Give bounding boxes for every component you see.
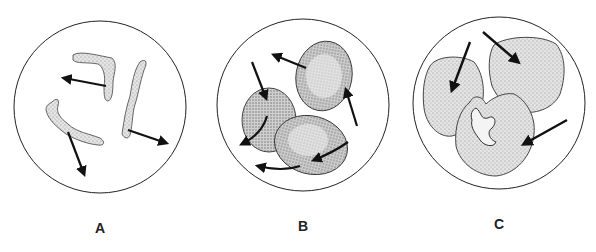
- arrow-icon: [128, 130, 166, 143]
- panel-b: [217, 19, 389, 191]
- cell-center: [288, 124, 328, 156]
- panel-a: [14, 21, 186, 193]
- arrow-icon: [346, 90, 357, 126]
- panel-a-circle: [14, 21, 186, 193]
- figure-canvas: [0, 0, 596, 252]
- cell-center: [306, 54, 342, 98]
- panel-label-b: B: [298, 218, 308, 234]
- panel-c: [413, 17, 585, 189]
- panel-label-a: A: [95, 220, 105, 236]
- fragment-shape: [122, 60, 146, 138]
- fragment-shape: [46, 99, 104, 145]
- panel-label-c: C: [494, 216, 504, 232]
- cell-shape: [456, 94, 535, 176]
- arrow-icon: [64, 78, 106, 86]
- fragment-shape: [73, 53, 115, 101]
